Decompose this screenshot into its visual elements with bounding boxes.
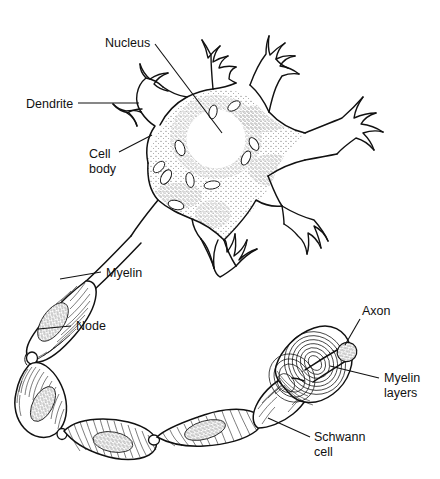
label-schwann-cell-line1: Schwann [314, 430, 365, 444]
neuron-diagram: Nucleus Dendrite Cell body Myelin Node A… [0, 0, 440, 479]
label-cell-body-line2: body [89, 162, 117, 176]
dendrite-upper-left [113, 64, 168, 126]
dendrite-right-upper [305, 97, 383, 160]
myelin-segment-3 [64, 419, 157, 460]
myelin-leader [60, 272, 101, 279]
myelin-segment-2 [15, 362, 67, 437]
label-schwann-cell-line2: cell [314, 445, 333, 459]
label-myelin-layers-line1: Myelin [384, 371, 420, 385]
label-myelin-layers-line2: layers [384, 386, 417, 400]
neuron-illustration: Nucleus Dendrite Cell body Myelin Node A… [0, 0, 440, 479]
dendrite-top-middle [202, 40, 236, 89]
axon-leader [345, 319, 360, 345]
label-dendrite: Dendrite [26, 97, 73, 111]
label-nucleus: Nucleus [105, 36, 150, 50]
schwann-leader [268, 418, 310, 437]
dendrite-top-right [250, 36, 299, 112]
label-cell-body-line1: Cell [89, 147, 111, 161]
label-myelin: Myelin [106, 266, 142, 280]
dendrite-right-lower [282, 206, 328, 254]
label-axon: Axon [362, 304, 391, 318]
myelin-segment-4 [157, 409, 261, 446]
axon-and-myelin [15, 236, 361, 460]
label-node: Node [76, 319, 106, 333]
